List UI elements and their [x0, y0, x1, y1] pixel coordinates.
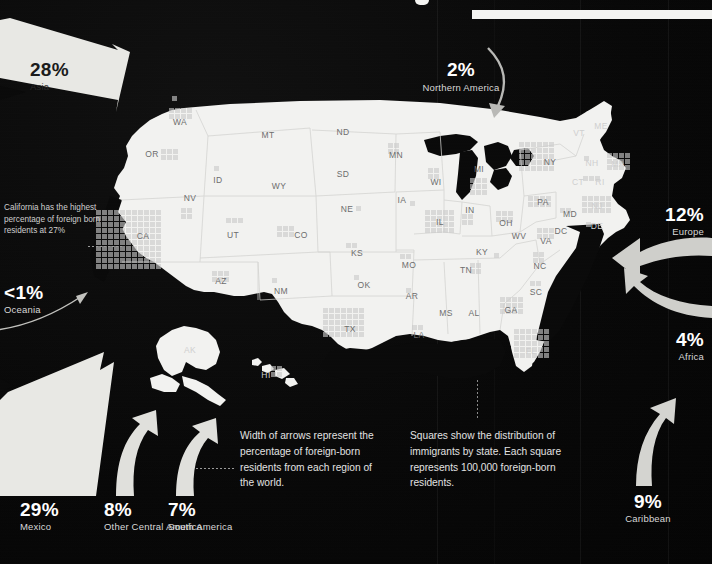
immigrant-square: [437, 228, 442, 233]
immigrant-square: [514, 353, 519, 358]
immigrant-square: [538, 329, 543, 334]
state-label-ca: CA: [137, 231, 150, 241]
immigrant-square: [126, 222, 131, 227]
immigrant-square: [496, 211, 501, 216]
state-label-fl: FL: [526, 346, 537, 356]
immigrant-square: [449, 210, 454, 215]
immigrant-square: [108, 252, 113, 257]
immigrant-square: [606, 208, 611, 213]
immigrant-square: [519, 160, 524, 165]
immigrant-square: [156, 252, 161, 257]
immigrant-square: [549, 228, 554, 233]
immigrant-square: [531, 148, 536, 153]
immigrant-square: [150, 246, 155, 251]
state-label-ms: MS: [439, 308, 453, 318]
immigrant-square: [120, 228, 125, 233]
immigrant-square: [175, 108, 180, 113]
immigrant-square: [500, 297, 505, 302]
state-label-in: IN: [465, 205, 474, 215]
state-label-nm: NM: [274, 286, 288, 296]
immigrant-square: [132, 246, 137, 251]
state-label-la: LA: [413, 330, 424, 340]
immigrant-square: [531, 166, 536, 171]
immigrant-square: [138, 210, 143, 215]
immigrant-square: [425, 216, 430, 221]
state-label-al: AL: [468, 308, 479, 318]
state-label-de: DE: [591, 221, 604, 231]
arrow-south-america: [176, 418, 218, 496]
state-label-ia: IA: [398, 195, 407, 205]
state-label-oh: OH: [499, 218, 513, 228]
immigrant-square: [520, 341, 525, 346]
immigrant-square: [347, 308, 352, 313]
immigrant-square: [512, 297, 517, 302]
immigrant-square: [172, 96, 177, 101]
immigrant-square: [544, 347, 549, 352]
immigrant-square: [538, 353, 543, 358]
immigrant-square: [449, 228, 454, 233]
immigrant-square: [96, 258, 101, 263]
immigrant-square: [114, 252, 119, 257]
immigrant-square: [437, 210, 442, 215]
immigrant-square: [476, 190, 481, 195]
state-label-me: ME: [594, 121, 608, 131]
immigrant-square: [335, 308, 340, 313]
legend-squares-leader: [477, 380, 478, 418]
arrow-label-other-central-america: 8% Other Central America: [104, 500, 150, 532]
immigrant-square: [613, 153, 618, 158]
immigrant-square: [482, 184, 487, 189]
immigrant-square: [525, 160, 530, 165]
immigrant-square: [144, 210, 149, 215]
immigrant-square: [277, 372, 282, 377]
immigrant-square: [138, 252, 143, 257]
immigrant-square: [238, 218, 243, 223]
immigrant-square: [126, 216, 131, 221]
immigrant-square: [537, 228, 542, 233]
immigrant-square: [169, 108, 174, 113]
immigrant-square: [150, 234, 155, 239]
immigrant-square: [144, 264, 149, 269]
immigrant-square: [528, 202, 533, 207]
immigrant-square: [476, 269, 481, 274]
immigrant-square: [625, 153, 630, 158]
immigrant-square: [156, 234, 161, 239]
immigrant-square: [543, 228, 548, 233]
immigrant-square: [359, 308, 364, 313]
immigrant-square: [132, 222, 137, 227]
immigrant-square: [536, 281, 541, 286]
immigrant-square: [132, 210, 137, 215]
immigrant-square: [323, 320, 328, 325]
immigrant-square: [277, 366, 282, 371]
arrow-label-asia: 28% Asia: [30, 60, 69, 92]
immigrant-square: [126, 228, 131, 233]
state-label-nc: NC: [533, 261, 546, 271]
immigrant-square: [482, 178, 487, 183]
immigrant-square: [120, 216, 125, 221]
immigrant-square: [520, 335, 525, 340]
immigrant-square: [150, 216, 155, 221]
arrow-label-mexico: 29% Mexico: [20, 500, 59, 532]
state-label-wa: WA: [173, 117, 187, 127]
immigrant-square: [120, 234, 125, 239]
immigrant-square: [156, 216, 161, 221]
immigrant-square: [625, 159, 630, 164]
immigrant-square: [329, 332, 334, 337]
immigrant-square: [126, 210, 131, 215]
state-label-mn: MN: [389, 150, 403, 160]
state-label-ok: OK: [357, 280, 370, 290]
immigrant-square: [538, 341, 543, 346]
immigrant-square: [150, 210, 155, 215]
immigrant-square: [543, 142, 548, 147]
immigrant-square: [625, 165, 630, 170]
immigrant-square: [476, 263, 481, 268]
immigrant-square: [138, 216, 143, 221]
immigrant-square: [434, 168, 439, 173]
immigrant-square: [144, 222, 149, 227]
arrow-label-africa: 4% Africa: [676, 330, 704, 362]
immigrant-square: [96, 264, 101, 269]
immigrant-square: [96, 240, 101, 245]
state-label-wi: WI: [430, 177, 441, 187]
immigrant-square: [283, 232, 288, 237]
immigrant-square: [187, 108, 192, 113]
immigrant-square: [582, 196, 587, 201]
